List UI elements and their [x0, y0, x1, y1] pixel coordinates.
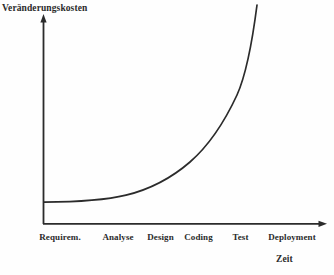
x-axis-title: Zeit [276, 254, 293, 265]
x-tick-label-requirements: Requirem. [36, 232, 84, 242]
x-tick-label-design: Design [144, 232, 177, 242]
x-tick-label-deployment: Deployment [261, 232, 323, 242]
x-axis-arrowhead [319, 221, 328, 227]
chart-figure: Veränderungskosten Zeit Requirem. Analys… [0, 0, 334, 275]
x-tick-label-coding: Coding [181, 232, 216, 242]
x-tick-label-analyse: Analyse [99, 232, 137, 242]
y-axis-arrowhead [40, 14, 46, 23]
x-tick-label-test: Test [229, 232, 252, 242]
y-axis-title: Veränderungskosten [2, 3, 87, 14]
cost-of-change-curve [44, 5, 257, 202]
